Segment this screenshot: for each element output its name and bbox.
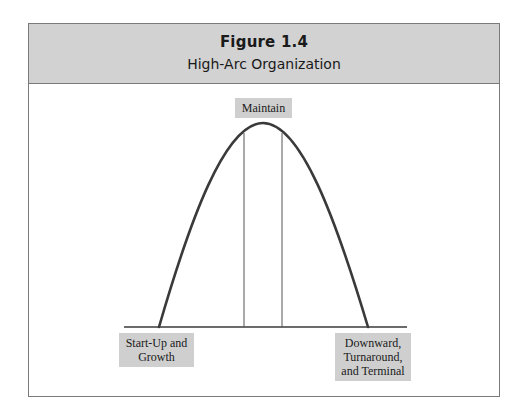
high-arc-curve (159, 123, 368, 327)
label-maintain: Maintain (235, 98, 292, 118)
label-downward-terminal: Downward, Turnaround, and Terminal (335, 333, 411, 381)
label-startup-growth: Start-Up and Growth (119, 333, 194, 367)
arc-diagram (0, 0, 526, 418)
